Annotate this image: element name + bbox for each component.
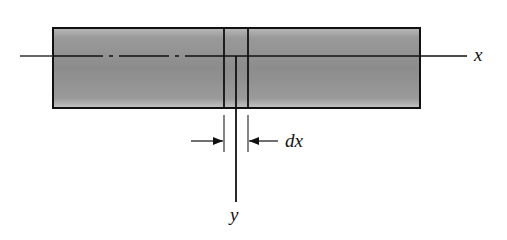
y-axis-label: y: [228, 204, 239, 225]
x-axis-label: x: [473, 44, 483, 65]
dx-label: dx: [285, 130, 304, 151]
beam-diagram: x y dx: [0, 0, 507, 240]
